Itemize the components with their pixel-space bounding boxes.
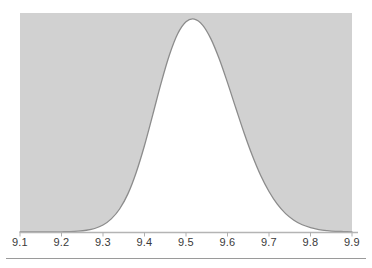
distribution-chart [0,0,372,268]
figure-container: 9.19.29.39.49.59.69.79.89.9 [0,0,372,268]
